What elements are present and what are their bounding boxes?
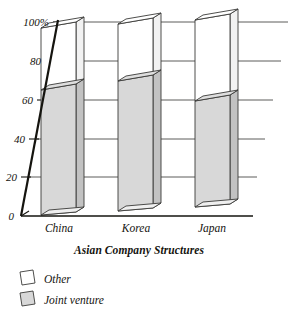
chart-figure: 100% 80 60 40 20 0 China Korea Japan Asi…	[0, 0, 301, 318]
korea-other-side	[153, 13, 161, 75]
chart-legend: Other Joint venture	[20, 270, 104, 306]
korea-other-front	[118, 18, 153, 81]
china-other-side	[76, 17, 84, 84]
bar-group-japan	[195, 9, 238, 207]
legend-label-other: Other	[44, 273, 71, 285]
legend-label-joint-venture: Joint venture	[44, 294, 104, 306]
y-tick-label-80: 80	[30, 55, 42, 67]
legend-item-joint-venture[interactable]: Joint venture	[20, 291, 104, 306]
cat-label-japan: Japan	[198, 222, 226, 235]
legend-swatch-joint-venture	[20, 291, 35, 306]
plot-area	[21, 9, 288, 216]
japan-jv-side	[230, 90, 238, 204]
legend-item-other[interactable]: Other	[20, 270, 71, 285]
cat-label-korea: Korea	[121, 222, 151, 234]
y-tick-label-60: 60	[22, 94, 34, 106]
x-axis-labels: China Korea Japan	[45, 222, 226, 235]
legend-swatch-other	[20, 270, 35, 285]
y-tick-label-0: 0	[9, 210, 15, 222]
korea-jv-front	[118, 75, 153, 211]
china-jv-front	[41, 84, 76, 215]
chart-title: Asian Company Structures	[73, 244, 205, 257]
korea-jv-side	[153, 70, 161, 208]
cat-label-china: China	[45, 222, 73, 234]
y-tick-label-20: 20	[6, 171, 18, 183]
japan-other-front	[195, 14, 230, 101]
japan-other-side	[230, 9, 238, 95]
y-tick-label-40: 40	[14, 133, 26, 145]
bar-group-china	[41, 17, 84, 215]
stacked-bar-chart: 100% 80 60 40 20 0 China Korea Japan Asi…	[0, 0, 301, 318]
japan-jv-front	[195, 95, 230, 207]
y-tick-label-100: 100%	[23, 16, 49, 28]
china-jv-side	[76, 79, 84, 212]
bar-group-korea	[118, 13, 161, 211]
